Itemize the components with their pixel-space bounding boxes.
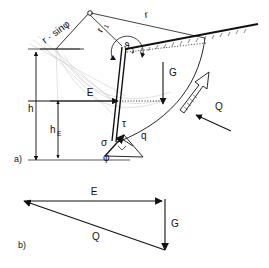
label-theta1-subscript: 1 bbox=[131, 47, 135, 54]
vector-Q-label: Q bbox=[92, 231, 100, 242]
vector-E-label: E bbox=[91, 186, 98, 197]
force-Q-label: Q bbox=[215, 101, 223, 112]
canvas-background bbox=[0, 0, 269, 268]
label-theta1: ϑ bbox=[124, 41, 130, 52]
dimension-hE-subscript: E bbox=[57, 130, 62, 137]
force-E-label: E bbox=[87, 87, 94, 98]
panel-a-label: a) bbox=[14, 154, 22, 164]
dimension-h-label: h bbox=[28, 103, 34, 114]
stress-phi-label: φ bbox=[103, 152, 110, 163]
figure-root: h h E E G bbox=[0, 0, 269, 268]
stress-sigma-label: σ bbox=[101, 137, 108, 148]
slope-stability-figure: h h E E G bbox=[0, 0, 269, 268]
vector-G-label: G bbox=[171, 218, 179, 229]
stress-q-label: q bbox=[141, 130, 147, 141]
panel-b-label: b) bbox=[18, 240, 26, 250]
stress-tau-label: τ bbox=[122, 118, 126, 129]
force-G-label: G bbox=[169, 67, 177, 78]
dimension-hE-label: h bbox=[50, 124, 56, 135]
